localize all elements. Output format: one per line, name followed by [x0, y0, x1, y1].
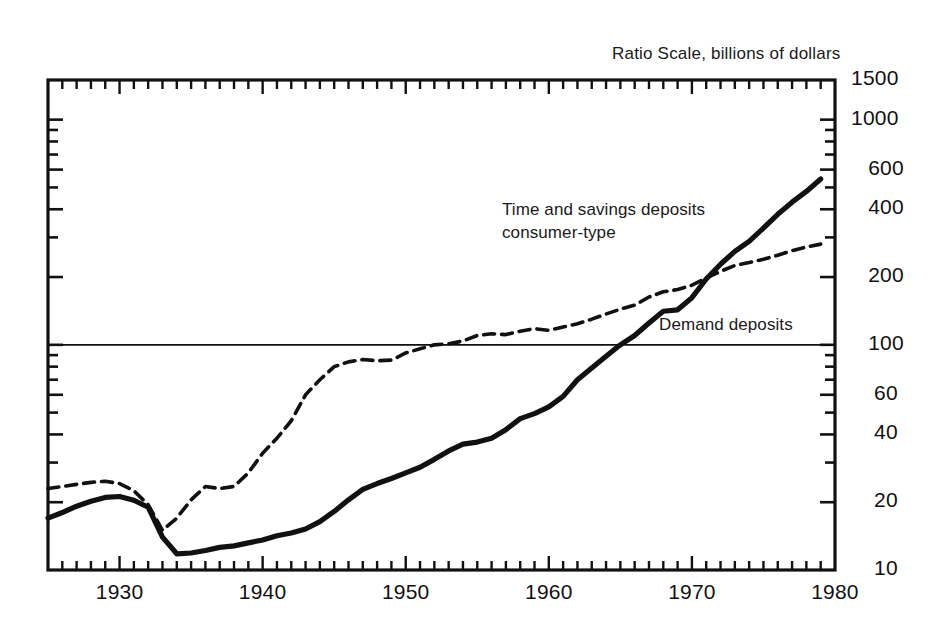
chart-figure: Ratio Scale, billions of dollars 1500100…: [0, 0, 945, 640]
x-tick-label-1940: 1940: [223, 580, 303, 604]
x-tick-label-1930: 1930: [80, 580, 160, 604]
y-tick-label-400: 400: [851, 195, 921, 219]
y-axis-ticks: [48, 120, 835, 503]
y-tick-label-100: 100: [851, 331, 921, 355]
y-tick-label-60: 60: [851, 381, 921, 405]
y-tick-label-200: 200: [851, 263, 921, 287]
x-tick-label-1950: 1950: [366, 580, 446, 604]
y-tick-label-40: 40: [851, 420, 921, 444]
x-tick-label-1980: 1980: [795, 580, 875, 604]
y-tick-label-1500: 1500: [851, 66, 921, 90]
x-tick-label-1960: 1960: [509, 580, 589, 604]
series-label-time-savings-line1: Time and savings deposits: [502, 199, 705, 222]
x-tick-label-1970: 1970: [652, 580, 732, 604]
y-tick-label-1000: 1000: [851, 106, 921, 130]
series-label-demand-deposits: Demand deposits: [659, 314, 793, 337]
series-label-demand-deposits-line1: Demand deposits: [659, 314, 793, 337]
series-label-time-savings-line2: consumer-type: [502, 222, 705, 245]
series-label-time-savings: Time and savings deposits consumer-type: [502, 199, 705, 245]
chart-plot-area: [0, 0, 945, 640]
y-tick-label-20: 20: [851, 488, 921, 512]
y-tick-label-10: 10: [851, 556, 921, 580]
series-line-demand-deposits: [48, 244, 821, 530]
y-tick-label-600: 600: [851, 156, 921, 180]
axis-units-note: Ratio Scale, billions of dollars: [612, 44, 840, 64]
